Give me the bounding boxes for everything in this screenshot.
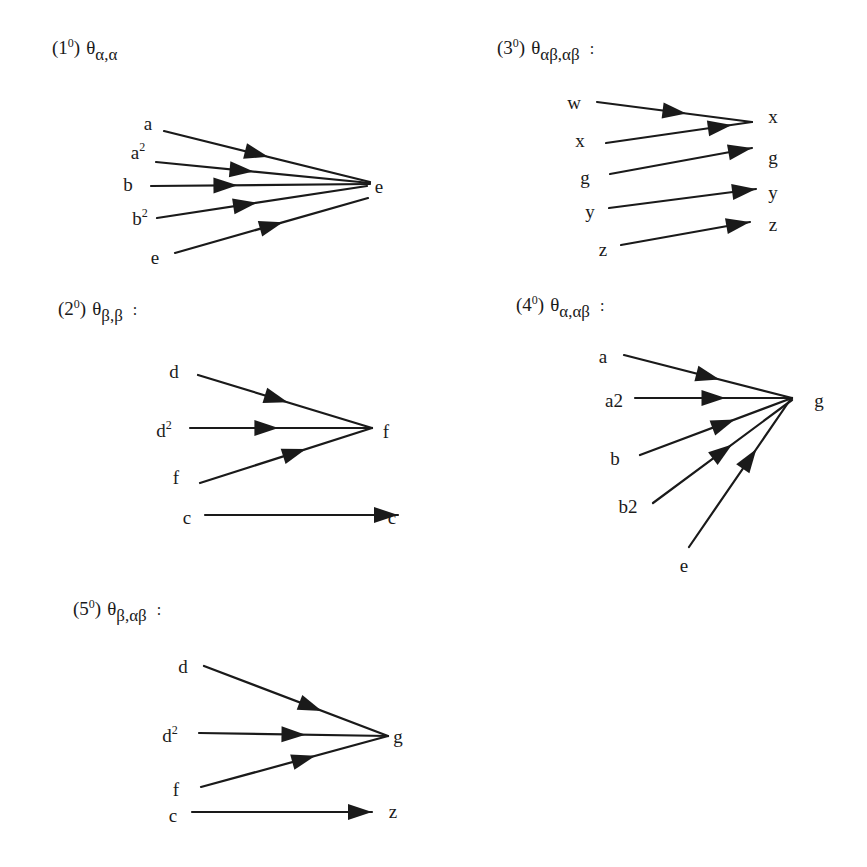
arrowhead-icon	[263, 388, 288, 403]
arrow-layer	[0, 0, 867, 867]
diagram-title-4: (40)θα,αβ:	[516, 293, 604, 316]
arrow-4-2	[640, 398, 792, 455]
source-node-label: d	[178, 656, 188, 678]
diagram-title-1: (10)θα,α	[52, 36, 117, 59]
node-label-text: e	[680, 555, 688, 576]
arrow-2-0	[198, 375, 372, 428]
arrowhead-icon	[297, 695, 322, 711]
diagram-number: (30)	[497, 37, 525, 58]
arrow-1-0	[164, 131, 370, 182]
diagram-title-3: (30)θαβ,αβ:	[497, 36, 594, 59]
source-node-label: b	[123, 174, 133, 196]
target-node-label: z	[389, 801, 397, 823]
source-node-label: a2	[131, 140, 145, 163]
node-label-text: d	[156, 420, 166, 441]
source-node-label: c	[169, 805, 177, 827]
source-node-label: b2	[132, 206, 148, 229]
target-node-label: g	[768, 147, 778, 169]
source-node-label: d2	[162, 723, 178, 746]
diagram-number-exponent: 0	[513, 36, 519, 50]
arrow-line	[689, 400, 790, 547]
arrow-4-3	[653, 400, 792, 503]
arrowhead-icon	[281, 726, 305, 742]
node-label-text: a2	[605, 390, 623, 411]
arrowhead-icon	[229, 161, 254, 177]
node-label-exponent: 2	[142, 206, 148, 220]
node-label-text: b	[123, 174, 133, 195]
source-node-label: e	[680, 555, 688, 577]
arrow-3-1	[606, 120, 752, 143]
arrow-1-4	[175, 198, 368, 253]
theta-subscript: α,αβ	[559, 302, 590, 321]
source-node-label: e	[151, 247, 159, 269]
arrow-3-4	[621, 218, 750, 245]
arrow-line	[151, 184, 370, 186]
arrow-1-3	[157, 186, 367, 218]
arrowhead-icon	[727, 145, 752, 161]
diagram-number: (10)	[52, 37, 80, 58]
arrowhead-icon	[736, 449, 756, 473]
arrowhead-icon	[213, 177, 237, 193]
source-node-label: f	[173, 467, 179, 489]
diagram-number-exponent: 0	[89, 597, 95, 611]
target-node-label: c	[388, 507, 396, 529]
arrowhead-icon	[725, 218, 750, 234]
arrowhead-icon	[290, 754, 315, 769]
theta-subscript: α,α	[95, 45, 117, 64]
node-label-exponent: 2	[139, 140, 145, 154]
source-node-label: y	[585, 201, 595, 223]
source-node-label: c	[183, 507, 191, 529]
source-node-label: a	[599, 346, 607, 368]
arrowhead-icon	[710, 419, 735, 435]
theta-symbol: θ	[92, 298, 101, 319]
arrowhead-icon	[707, 120, 732, 136]
arrow-5-3	[192, 804, 372, 820]
node-label-text: b	[132, 208, 142, 229]
arrowhead-icon	[254, 420, 278, 436]
target-node-label: g	[814, 390, 824, 412]
arrowhead-icon	[702, 390, 726, 406]
diagram-number-value: 3	[503, 37, 513, 58]
node-label-text: b	[610, 448, 620, 469]
node-label-text: y	[585, 201, 595, 222]
arrow-3-2	[610, 145, 752, 175]
arrow-2-3	[205, 507, 398, 523]
arrow-2-1	[190, 420, 372, 436]
source-node-label: b2	[619, 496, 638, 518]
source-node-label: f	[173, 779, 179, 801]
diagram-title-2: (20)θβ,β:	[58, 297, 137, 320]
arrow-4-4	[689, 400, 790, 547]
arrowhead-icon	[348, 804, 372, 820]
node-label-text: z	[599, 239, 607, 260]
node-label-text: d	[162, 725, 172, 746]
arrowhead-icon	[694, 366, 719, 382]
target-node-label: y	[768, 182, 778, 204]
source-node-label: x	[575, 130, 585, 152]
title-colon: :	[157, 601, 161, 618]
target-node-label: f	[383, 421, 389, 443]
arrowhead-icon	[281, 449, 306, 464]
arrow-5-0	[204, 666, 388, 736]
arrow-3-0	[597, 102, 752, 122]
diagram-title-5: (50)θβ,αβ:	[73, 597, 161, 620]
node-label-text: e	[151, 247, 159, 268]
arrowhead-icon	[258, 221, 283, 236]
theta-symbol: θ	[531, 37, 540, 58]
node-label-text: a	[144, 113, 152, 134]
theta-symbol: θ	[86, 37, 95, 58]
diagram-number-exponent: 0	[68, 36, 74, 50]
node-label-text: w	[567, 92, 581, 113]
theta-subscript: αβ,αβ	[540, 45, 579, 64]
source-node-label: d	[169, 361, 179, 383]
node-label-text: d	[178, 656, 188, 677]
diagram-number-value: 2	[64, 298, 74, 319]
target-node-label: g	[393, 726, 403, 748]
node-label-text: c	[169, 805, 177, 826]
source-node-label: w	[567, 92, 581, 114]
node-label-text: x	[575, 130, 585, 151]
arrow-line	[156, 162, 370, 183]
node-label-text: f	[173, 779, 179, 800]
arrow-line	[204, 666, 388, 736]
diagram-number: (20)	[58, 298, 86, 319]
title-colon: :	[590, 40, 594, 57]
